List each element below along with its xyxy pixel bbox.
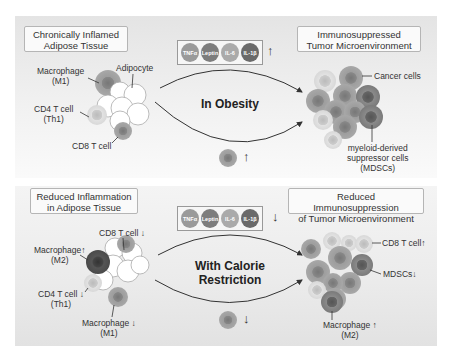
cytokine-box-top: TNFα Leptin IL-6 IL-1β <box>177 40 263 65</box>
cytokine-tnf: TNFα <box>181 209 199 228</box>
mdsc-cell-icon <box>219 311 237 329</box>
obesity-label: In Obesity <box>188 97 272 111</box>
up-arrow-icon: ↑ <box>267 44 274 57</box>
adipocyte-label: Adipocyte <box>116 63 153 73</box>
tumor-cluster-bottom <box>301 232 381 320</box>
tumor-cluster-top <box>306 66 383 149</box>
tumor-title-top: Immunosuppressed Tumor Microenvironment <box>297 26 421 52</box>
macrophage-m2-label: Macrophage↑ (M2) <box>34 245 86 265</box>
calorie-restriction-label: With Calorie Restriction <box>180 259 280 287</box>
cytokine-il6: IL-6 <box>221 209 239 228</box>
adipose-title-bottom: Reduced Inflammation in Adipose Tissue <box>30 188 138 214</box>
cd8-tcell-tumor-label: CD8 T cell↑ <box>382 238 426 248</box>
mdsc-label: MDSCs↓ <box>383 269 417 279</box>
cd8-tcell-label: CD8 T cell ↓ <box>99 228 145 238</box>
up-arrow-icon: ↑ <box>243 150 250 163</box>
cancer-cells-label: Cancer cells <box>374 71 421 81</box>
cytokine-leptin: Leptin <box>201 209 219 228</box>
cytokine-il6: IL-6 <box>221 43 239 62</box>
adipose-cluster-bottom <box>80 235 149 317</box>
cytokine-il1b: IL-1β <box>241 209 259 228</box>
macrophage-m2-tumor-label: Macrophage ↑ (M2) <box>323 320 377 340</box>
mdsc-label: myeloid-derived suppressor cells (MDSCs) <box>347 143 408 173</box>
mdsc-cell-icon <box>219 149 237 167</box>
cd4-tcell-label: CD4 T cell ↓ (Th1) <box>38 289 84 309</box>
cytokine-leptin: Leptin <box>201 43 219 62</box>
down-arrow-icon: ↓ <box>243 312 250 325</box>
adipose-cluster-top <box>80 70 149 143</box>
tumor-title-bottom: Reduced Immunosuppression of Tumor Micro… <box>288 188 424 214</box>
macrophage-m1-label: Macrophage ↓ (M1) <box>82 318 136 338</box>
cd4-tcell-label: CD4 T cell (Th1) <box>34 104 73 124</box>
down-arrow-icon: ↓ <box>272 210 279 223</box>
cytokine-tnf: TNFα <box>181 43 199 62</box>
cd8-tcell-label: CD8 T cell <box>72 141 111 151</box>
cytokine-box-bottom: TNFα Leptin IL-6 IL-1β <box>177 206 263 231</box>
adipose-title-top: Chronically Inflamed Adipose Tissue <box>24 26 128 52</box>
macrophage-m1-label: Macrophage (M1) <box>37 66 84 86</box>
cytokine-il1b: IL-1β <box>241 43 259 62</box>
